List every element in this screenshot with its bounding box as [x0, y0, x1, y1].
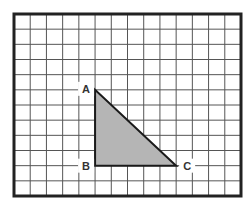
grid-lines: [14, 14, 241, 196]
vertex-label-a: A: [82, 83, 90, 95]
vertex-label-b: B: [82, 160, 90, 172]
vertex-label-c: C: [183, 160, 191, 172]
grid-diagram: A B C: [0, 0, 247, 206]
triangle-abc: [95, 90, 176, 166]
